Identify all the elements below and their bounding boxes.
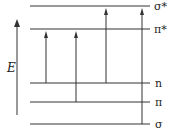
transition-n-to-sigma-star — [104, 8, 108, 83]
axis-arrow-icon — [14, 19, 20, 27]
level-label: σ* — [154, 0, 168, 13]
transition-n-to-pi-star — [44, 31, 48, 83]
level-label: σ — [155, 118, 163, 131]
level-sigma: σ — [30, 118, 163, 131]
energy-axis: E — [6, 19, 20, 115]
arrowhead-icon — [104, 8, 108, 15]
transition-pi-to-pi-star — [74, 31, 78, 102]
transition-sigma-to-sigma-star — [140, 8, 144, 124]
level-label: π* — [154, 23, 167, 36]
arrowhead-icon — [44, 31, 48, 38]
axis-label: E — [6, 61, 16, 75]
level-label: n — [155, 77, 162, 90]
level-sigma-star: σ* — [30, 0, 168, 13]
arrowhead-icon — [140, 8, 144, 15]
level-label: π — [155, 96, 162, 109]
level-pi-star: π* — [30, 23, 167, 36]
energy-level-diagram: E σ* π* n π σ — [0, 0, 171, 138]
arrowhead-icon — [74, 31, 78, 38]
